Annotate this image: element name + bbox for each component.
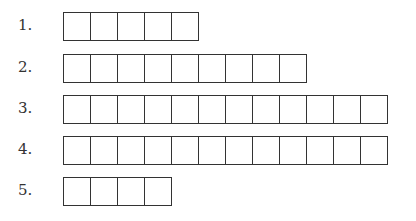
row-2: 2. — [0, 54, 416, 83]
letter-box[interactable] — [253, 55, 280, 82]
letter-box[interactable] — [118, 96, 145, 123]
row-4: 4. — [0, 136, 416, 165]
letter-box[interactable] — [91, 13, 118, 40]
letter-box[interactable] — [226, 137, 253, 164]
letter-box[interactable] — [91, 55, 118, 82]
letter-box[interactable] — [118, 178, 145, 205]
letter-box[interactable] — [334, 96, 361, 123]
letter-box[interactable] — [334, 137, 361, 164]
letter-box-group — [63, 136, 388, 165]
letter-box[interactable] — [226, 96, 253, 123]
letter-box[interactable] — [172, 96, 199, 123]
letter-box[interactable] — [280, 96, 307, 123]
letter-box-group — [63, 12, 199, 41]
letter-box[interactable] — [307, 137, 334, 164]
letter-box[interactable] — [172, 55, 199, 82]
letter-box[interactable] — [118, 13, 145, 40]
letter-box[interactable] — [64, 13, 91, 40]
letter-box[interactable] — [145, 13, 172, 40]
letter-box[interactable] — [118, 55, 145, 82]
row-1: 1. — [0, 12, 416, 41]
row-3: 3. — [0, 95, 416, 124]
letter-box[interactable] — [199, 137, 226, 164]
letter-box[interactable] — [361, 137, 388, 164]
letter-box[interactable] — [118, 137, 145, 164]
letter-box[interactable] — [91, 96, 118, 123]
row-number-label: 2. — [18, 58, 32, 76]
letter-box[interactable] — [172, 137, 199, 164]
letter-box[interactable] — [280, 55, 307, 82]
letter-box[interactable] — [91, 178, 118, 205]
row-5: 5. — [0, 177, 416, 206]
row-number-label: 5. — [18, 181, 32, 199]
letter-box-group — [63, 95, 388, 124]
row-number-label: 1. — [18, 16, 32, 34]
letter-box[interactable] — [64, 137, 91, 164]
letter-box[interactable] — [253, 96, 280, 123]
letter-box[interactable] — [307, 96, 334, 123]
letter-box[interactable] — [91, 137, 118, 164]
letter-box[interactable] — [280, 137, 307, 164]
letter-box[interactable] — [145, 96, 172, 123]
letter-box[interactable] — [199, 96, 226, 123]
letter-box-group — [63, 54, 307, 83]
letter-box[interactable] — [145, 137, 172, 164]
letter-box[interactable] — [361, 96, 388, 123]
row-number-label: 3. — [18, 99, 32, 117]
letter-box[interactable] — [199, 55, 226, 82]
letter-box[interactable] — [253, 137, 280, 164]
letter-box[interactable] — [64, 96, 91, 123]
letter-box[interactable] — [145, 55, 172, 82]
letter-box[interactable] — [145, 178, 172, 205]
letter-box[interactable] — [172, 13, 199, 40]
letter-box[interactable] — [226, 55, 253, 82]
letter-box-group — [63, 177, 172, 206]
letter-box[interactable] — [64, 55, 91, 82]
letter-box[interactable] — [64, 178, 91, 205]
row-number-label: 4. — [18, 140, 32, 158]
